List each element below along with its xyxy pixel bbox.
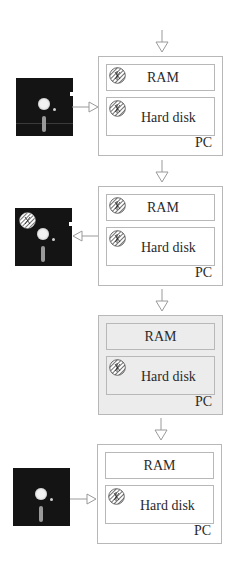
- arrow-down-icon: [155, 30, 169, 54]
- pc-box-rebooted: RAM Hard disk PC: [98, 315, 223, 415]
- arrow-right-icon: [70, 493, 97, 505]
- hard-disk-box: Hard disk: [106, 227, 215, 266]
- ram-box: RAM: [106, 194, 215, 221]
- virus-icon: [19, 212, 36, 229]
- floppy-index-hole: [53, 108, 56, 111]
- floppy-read-slot: [39, 506, 43, 522]
- virus-icon: [109, 100, 126, 117]
- ram-box: RAM: [106, 323, 215, 350]
- virus-icon: [109, 67, 126, 84]
- pc-label: PC: [194, 523, 211, 539]
- floppy-notch: [70, 92, 73, 96]
- hard-disk-box: Hard disk: [106, 356, 215, 395]
- floppy-index-hole: [52, 238, 55, 241]
- pc-label: PC: [195, 394, 212, 410]
- virus-icon: [109, 197, 126, 214]
- virus-icon: [109, 359, 126, 376]
- floppy-hub: [35, 488, 47, 500]
- pc-label: PC: [195, 265, 212, 281]
- arrow-down-icon: [155, 289, 169, 313]
- ram-label: RAM: [107, 329, 214, 345]
- floppy-index-hole: [50, 498, 53, 501]
- arrow-down-icon: [154, 418, 168, 442]
- ram-label: RAM: [147, 70, 179, 86]
- hard-disk-box: Hard disk: [105, 485, 214, 524]
- hard-disk-label: Hard disk: [140, 498, 195, 514]
- virus-icon: [109, 230, 126, 247]
- ram-label: RAM: [147, 200, 179, 216]
- hard-disk-label: Hard disk: [141, 240, 196, 256]
- virus-icon: [108, 488, 125, 505]
- hard-disk-box: Hard disk: [106, 97, 215, 136]
- floppy-disk: [13, 468, 70, 526]
- arrow-down-icon: [155, 160, 169, 184]
- arrow-right-icon: [72, 101, 99, 113]
- pc-box: RAM Hard disk PC: [97, 444, 222, 544]
- floppy-hub: [37, 228, 49, 240]
- floppy-read-slot: [41, 246, 45, 262]
- pc-box: RAM Hard disk PC: [98, 186, 223, 286]
- floppy-disk-infected: [15, 208, 72, 266]
- pc-label: PC: [195, 135, 212, 151]
- ram-box: RAM: [106, 64, 215, 91]
- hard-disk-label: Hard disk: [141, 110, 196, 126]
- floppy-notch: [69, 222, 72, 226]
- floppy-read-slot: [42, 116, 46, 132]
- hard-disk-label: Hard disk: [141, 369, 196, 385]
- pc-box: RAM Hard disk PC: [98, 56, 223, 156]
- ram-box: RAM: [105, 452, 214, 479]
- floppy-disk: [16, 78, 73, 136]
- ram-label: RAM: [106, 458, 213, 474]
- floppy-hub: [38, 98, 50, 110]
- arrow-left-icon: [72, 230, 99, 242]
